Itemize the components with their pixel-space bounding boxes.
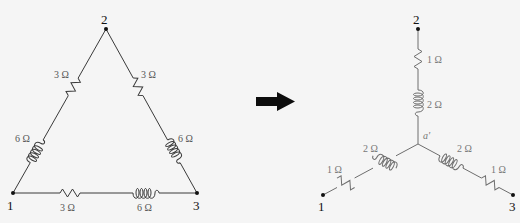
- wye-inductor-2-label: 2 Ω: [427, 100, 442, 110]
- wye-inductor-2: [414, 90, 424, 116]
- delta-node-2-label: 2: [101, 13, 108, 26]
- circuit-drawing: [0, 0, 520, 223]
- delta-wye-diagram: 2 1 3 3 Ω 6 Ω 3 Ω 6 Ω 3 Ω 6 Ω 2 1 3 a' 1…: [0, 0, 520, 223]
- delta-network: [13, 29, 197, 198]
- wye-resistor-3: [479, 175, 500, 192]
- delta-inductor-1-3: [133, 189, 159, 199]
- wye-center-label: a': [423, 131, 430, 141]
- wye-node-2: [416, 27, 420, 31]
- wye-resistor-2: [414, 49, 422, 69]
- wye-resistor-2-label: 1 Ω: [427, 55, 442, 65]
- delta-resistor-2-3-label: 3 Ω: [141, 70, 156, 80]
- wye-node-1: [321, 193, 325, 197]
- delta-inductor-1-2-label: 6 Ω: [15, 134, 30, 144]
- delta-node-2: [104, 27, 108, 31]
- right-arrow-icon: [256, 92, 295, 111]
- wye-node-3: [511, 193, 515, 197]
- wye-inductor-3-label: 2 Ω: [457, 144, 472, 154]
- delta-node-1-label: 1: [7, 199, 14, 212]
- wye-node-2-label: 2: [413, 13, 420, 26]
- wye-inductor-3: [438, 152, 466, 173]
- delta-resistor-1-2-label: 3 Ω: [54, 70, 69, 80]
- delta-inductor-2-3-label: 6 Ω: [178, 134, 193, 144]
- delta-inductor-1-3-label: 6 Ω: [137, 203, 152, 213]
- wye-network: [323, 29, 513, 195]
- wye-resistor-1-label: 1 Ω: [327, 165, 342, 175]
- delta-node-3: [195, 191, 199, 195]
- delta-node-1: [11, 191, 15, 195]
- wye-resistor-3-label: 1 Ω: [491, 165, 506, 175]
- delta-resistor-1-3-label: 3 Ω: [60, 203, 75, 213]
- wye-node-3-label: 3: [509, 200, 516, 213]
- wye-inductor-1-label: 2 Ω: [363, 144, 378, 154]
- wye-node-1-label: 1: [318, 200, 325, 213]
- delta-node-3-label: 3: [193, 199, 200, 212]
- wye-inductor-1: [371, 151, 399, 172]
- delta-resistor-1-3: [60, 189, 80, 197]
- wye-resistor-1: [335, 175, 356, 192]
